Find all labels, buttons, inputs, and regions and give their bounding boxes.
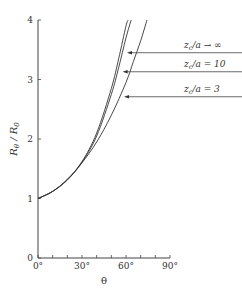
x-axis-title: θ	[101, 275, 107, 286]
y-axis-title-slash: / R	[8, 126, 19, 144]
chart: 0°30°60°90°01234 zc/a → ∞zc/a = 10zc/a =…	[0, 0, 242, 295]
series-line-1	[38, 20, 131, 199]
annotation-label: zc/a → ∞	[183, 40, 222, 52]
curves	[38, 20, 147, 199]
annotations: zc/a → ∞zc/a = 10zc/a = 3	[123, 40, 242, 99]
annotation-label: zc/a = 10	[183, 59, 226, 71]
x-tick-label: 90°	[162, 261, 178, 271]
annotation-label: zc/a = 3	[183, 84, 220, 96]
x-tick-label: 30°	[74, 261, 90, 271]
arrowhead-icon	[124, 95, 129, 99]
y-tick-label: 4	[27, 15, 33, 25]
axes: 0°30°60°90°01234	[27, 15, 178, 271]
y-tick-label: 2	[27, 134, 33, 144]
y-axis-title: Rθ / R0	[8, 122, 21, 157]
y-tick-label: 0	[27, 253, 33, 263]
y-tick-label: 3	[27, 75, 33, 85]
y-tick-label: 1	[27, 194, 33, 204]
x-tick-label: 0°	[33, 261, 43, 271]
series-line-2	[38, 20, 147, 199]
arrowhead-icon	[127, 51, 132, 55]
y-axis-title-sub2: 0	[13, 122, 21, 127]
arrowhead-icon	[123, 70, 128, 74]
x-tick-label: 60°	[118, 261, 134, 271]
